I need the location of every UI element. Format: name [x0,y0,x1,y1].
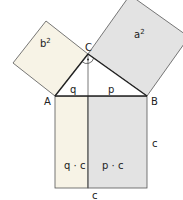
rect-q-c-label: q · c [64,160,85,171]
rect-q-c [55,96,88,188]
rect-p-c-label: p · c [102,160,123,171]
right-angle-dot [87,59,89,61]
side-c-bottom-label: c [92,190,98,200]
vertex-a-label: A [44,96,51,107]
pythagoras-diagram: b2 a2 C A B q p q · c p · c c c [0,0,183,200]
vertex-b-label: B [151,96,158,107]
side-c-right-label: c [152,138,158,149]
segment-p-label: p [108,84,114,95]
vertex-c-label: C [85,42,92,53]
segment-q-label: q [70,84,76,95]
rect-p-c [88,96,147,188]
